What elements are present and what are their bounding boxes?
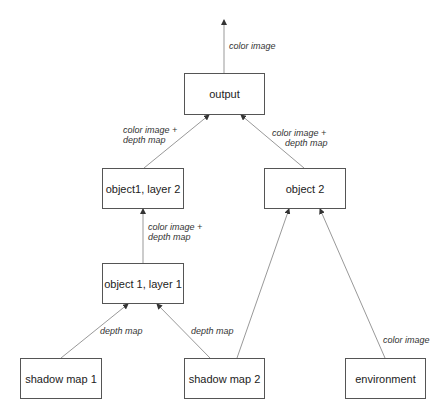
node-shadow-map-1: shadow map 1 [20,358,102,399]
label-sm2-l1: depth map [191,326,234,337]
node-output: output [184,73,265,115]
edge-layer [0,0,448,419]
edge-sm2-obj2 [237,209,289,358]
node-object1-layer2: object1, layer 2 [102,168,184,209]
label-l1-l2-2: depth map [148,232,191,243]
label-env-obj2: color image [383,335,430,346]
label-l2-output-2: depth map [123,135,166,146]
label-sm1-l1: depth map [100,326,143,337]
node-object1-layer1: object 1, layer 1 [102,263,184,304]
edge-env-obj2 [320,209,385,358]
node-object2: object 2 [264,168,346,209]
label-obj2-output-2: depth map [285,138,328,149]
node-environment: environment [345,358,426,399]
label-output-out: color image [229,41,276,52]
node-shadow-map-2: shadow map 2 [184,358,265,399]
